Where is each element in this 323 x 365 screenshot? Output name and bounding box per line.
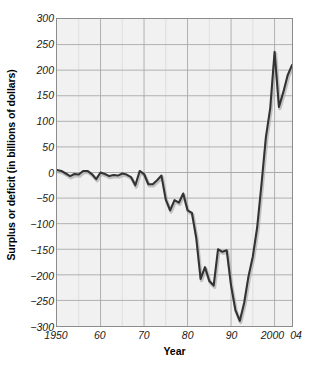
y-axis-tick-label: 250	[20, 38, 54, 50]
y-axis-tick-label: 150	[20, 89, 54, 101]
data-line-shadow	[58, 53, 292, 322]
x-axis-title: Year	[56, 345, 293, 357]
y-axis-tick-label: −200	[20, 270, 54, 282]
plot-area	[56, 18, 293, 327]
y-axis-tick-label: −250	[20, 295, 54, 307]
y-axis-tick-label: 200	[20, 64, 54, 76]
x-axis-tick-labels: 195060708090200004	[0, 329, 323, 345]
horizontal-gridlines	[57, 45, 292, 301]
y-axis-tick-labels: 300250200150100500−50−100−150−200−250−30…	[18, 0, 54, 365]
y-axis-tick-label: −150	[20, 244, 54, 256]
y-axis-tick-label: 100	[20, 115, 54, 127]
data-line-surplus-or-deficit	[57, 52, 292, 321]
x-axis-tick-label: 70	[138, 329, 150, 341]
y-axis-tick-label: −50	[20, 192, 54, 204]
y-axis-tick-label: 300	[20, 12, 54, 24]
y-axis-tick-label: −100	[20, 218, 54, 230]
chart-canvas	[57, 19, 292, 326]
x-axis-tick-label: 2000	[261, 329, 284, 341]
x-axis-tick-label: 60	[94, 329, 106, 341]
y-axis-tick-label: 0	[20, 167, 54, 179]
x-axis-tick-label: 80	[182, 329, 194, 341]
y-axis-tick-label: 50	[20, 141, 54, 153]
x-axis-tick-label: 90	[226, 329, 238, 341]
y-axis-title-text: Surplus or deficit (in billions of dolla…	[5, 69, 17, 260]
chart-figure: Surplus or deficit (in billions of dolla…	[0, 0, 323, 365]
x-axis-tick-label: 04	[290, 329, 302, 341]
x-axis-tick-label: 1950	[44, 329, 67, 341]
